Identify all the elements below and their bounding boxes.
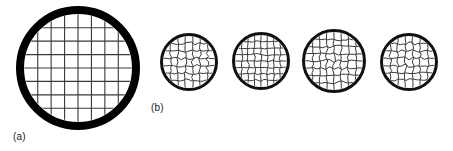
panel-a-group (20, 10, 136, 126)
figure-container: (a) (b) (0, 0, 453, 151)
figure-canvas (0, 0, 453, 151)
grid-large (20, 10, 136, 126)
panel-a-label: (a) (13, 131, 26, 142)
grid-small-4 (382, 35, 437, 90)
grid-small-3 (304, 31, 365, 92)
grid-small-2 (234, 34, 289, 89)
grid-small-1 (162, 35, 217, 90)
panel-b-label: (b) (151, 102, 164, 113)
